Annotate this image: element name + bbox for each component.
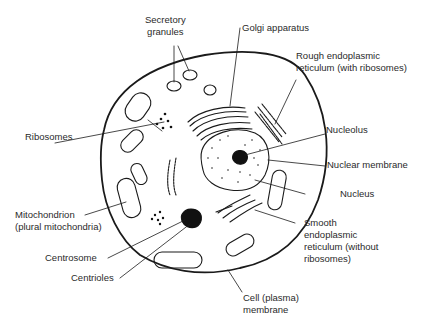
- er-left: [168, 158, 176, 195]
- label-rough-er: Rough endoplasmic reticulum (with riboso…: [296, 50, 407, 74]
- label-nuclear-membrane: Nuclear membrane: [327, 159, 408, 171]
- label-smooth-er: Smooth endoplasmic reticulum (without ri…: [304, 217, 378, 265]
- label-centrosome: Centrosome: [45, 252, 97, 264]
- cell-membrane: [101, 52, 327, 273]
- label-golgi-apparatus: Golgi apparatus: [242, 22, 309, 34]
- label-mitochondrion: Mitochondrion (plural mitochondria): [15, 209, 102, 233]
- label-cell-membrane: Cell (plasma) membrane: [243, 292, 299, 316]
- label-nucleus: Nucleus: [340, 188, 374, 200]
- smooth-er: [216, 195, 262, 222]
- label-nucleolus: Nucleolus: [326, 124, 368, 136]
- ribosome-dots: [151, 113, 173, 226]
- label-ribosomes: Ribosomes: [25, 131, 73, 143]
- golgi-apparatus: [188, 107, 252, 140]
- label-centrioles: Centrioles: [71, 272, 114, 284]
- nucleolus: [233, 151, 248, 165]
- centrosome: [181, 209, 201, 228]
- label-secretory-granules: Secretory granules: [145, 14, 186, 38]
